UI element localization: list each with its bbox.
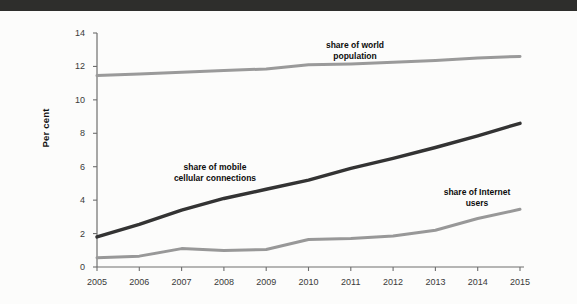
annotation-world-population-line1: share of world	[290, 40, 420, 51]
x-tick-label: 2009	[246, 277, 286, 287]
y-tick-label: 10	[67, 95, 85, 105]
plot-svg	[0, 0, 577, 304]
annotation-world-population: share of world population	[290, 40, 420, 61]
x-tick-label: 2012	[373, 277, 413, 287]
data-series-group	[97, 56, 520, 257]
x-tick-label: 2015	[500, 277, 540, 287]
axes	[93, 33, 524, 271]
x-tick-label: 2014	[458, 277, 498, 287]
annotation-world-population-line2: population	[290, 51, 420, 62]
y-tick-label: 6	[67, 162, 85, 172]
x-tick-label: 2013	[415, 277, 455, 287]
y-tick-label: 2	[67, 229, 85, 239]
x-tick-label: 2007	[162, 277, 202, 287]
annotation-mobile-cellular: share of mobile cellular connections	[150, 162, 280, 183]
y-tick-label: 12	[67, 61, 85, 71]
annotation-mobile-cellular-line2: cellular connections	[150, 173, 280, 184]
annotation-internet-users-line2: users	[412, 198, 542, 209]
x-tick-label: 2011	[331, 277, 371, 287]
x-tick-label: 2008	[204, 277, 244, 287]
y-tick-label: 14	[67, 28, 85, 38]
x-tick-label: 2006	[119, 277, 159, 287]
y-axis-title: Per cent	[40, 88, 51, 168]
line-chart: Per cent 02468101214 2005200620072008200…	[0, 0, 577, 304]
x-tick-label: 2005	[77, 277, 117, 287]
y-tick-label: 4	[67, 195, 85, 205]
annotation-mobile-cellular-line1: share of mobile	[150, 162, 280, 173]
y-tick-label: 0	[67, 262, 85, 272]
annotation-internet-users-line1: share of Internet	[412, 187, 542, 198]
chart-page: Per cent 02468101214 2005200620072008200…	[0, 0, 577, 304]
x-tick-label: 2010	[289, 277, 329, 287]
annotation-internet-users: share of Internet users	[412, 187, 542, 208]
y-tick-label: 8	[67, 128, 85, 138]
